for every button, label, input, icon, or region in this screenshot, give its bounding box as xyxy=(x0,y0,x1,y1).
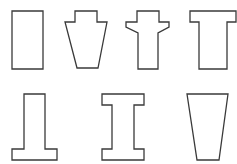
rectangle-shape xyxy=(12,11,43,69)
keystone-shape xyxy=(65,11,107,68)
t-section-shape xyxy=(190,11,236,69)
flanged-post-shape xyxy=(126,11,169,69)
inverted-t-section-shape xyxy=(12,94,57,160)
trapezoid-shape xyxy=(187,94,228,160)
shapes-diagram xyxy=(0,0,237,164)
i-beam-shape xyxy=(102,94,144,160)
